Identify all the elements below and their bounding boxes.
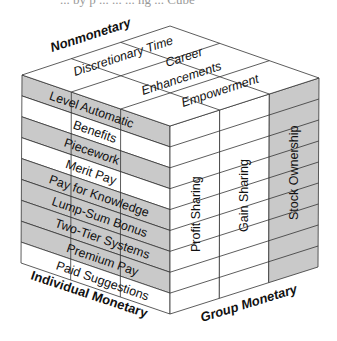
reward-cube-diagram: Level AutomaticBenefitsPieceworkMerit Pa… (0, 0, 337, 341)
column-label-stock-ownership: Stock Ownership (287, 125, 301, 220)
column-label-profit-sharing: Profit Sharing (189, 176, 203, 252)
column-label-gain-sharing: Gain Sharing (237, 159, 251, 232)
